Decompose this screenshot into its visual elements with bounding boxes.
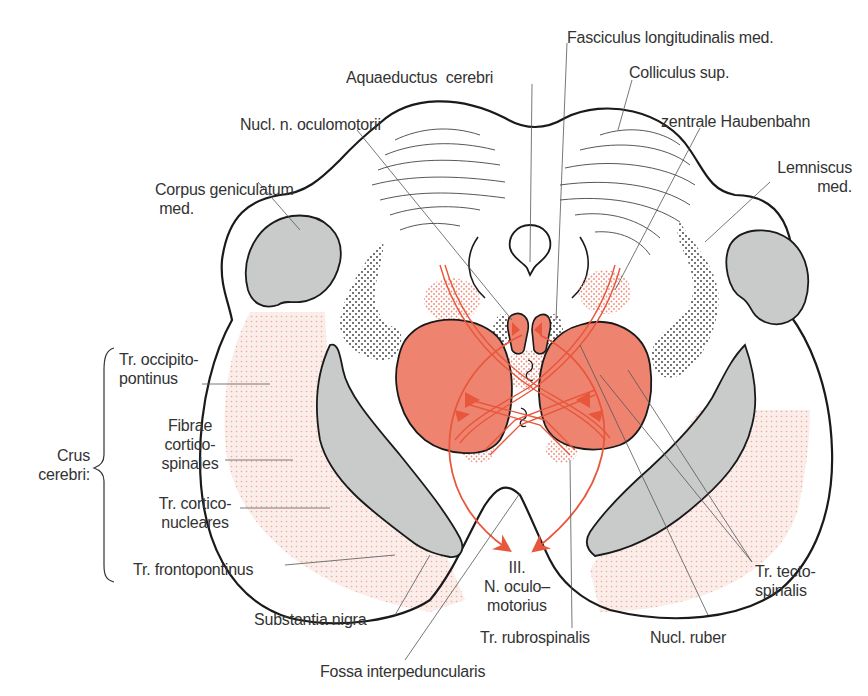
label-tr-frontopontinus: Tr. frontopontinus [133, 560, 253, 579]
diagram-canvas [0, 0, 868, 696]
label-tr-tectospinalis: Tr. tecto- spinalis [755, 562, 816, 600]
label-corpus-geniculatum: Corpus geniculatum med. [155, 180, 294, 218]
label-tr-rubrospinalis: Tr. rubrospinalis [480, 628, 590, 647]
lemniscus-left [340, 240, 401, 361]
label-n-oculomotorius: III. N. oculo– motorius [468, 558, 566, 615]
label-tr-corticonucleares: Tr. cortico- nucleares [140, 494, 250, 532]
label-substantia-nigra: Substantia nigra [254, 610, 366, 629]
label-fasciculus-longitudinalis: Fasciculus longitudinalis med. [567, 28, 774, 47]
corpus-geniculatum-left [246, 216, 341, 307]
label-tr-occipitopontinus: Tr. occipito- pontinus [119, 350, 199, 388]
midbrain-diagram: Aquaeductus cerebri Fasciculus longitudi… [0, 0, 868, 696]
label-zentrale-haubenbahn: zentrale Haubenbahn [661, 112, 810, 131]
crus-brace [94, 348, 114, 582]
nucl-oculomotorii-left [508, 313, 529, 353]
label-nucl-ruber: Nucl. ruber [650, 628, 726, 647]
label-colliculus-sup: Colliculus sup. [629, 63, 729, 82]
nucl-ruber-left [396, 320, 512, 453]
label-nucl-oculomotorii: Nucl. n. oculomotorii [240, 115, 381, 134]
label-fibrae-corticospinales: Fibrae cortico- spinales [140, 416, 240, 473]
label-aquaeductus: Aquaeductus cerebri [346, 68, 493, 87]
lemniscus-right [652, 222, 719, 378]
label-lemniscus-med: Lemniscus med. [754, 158, 852, 196]
corpus-geniculatum-right [726, 230, 808, 324]
label-fossa-interpeduncularis: Fossa interpeduncularis [320, 662, 485, 681]
label-crus-cerebri: Crus cerebri: [10, 446, 90, 484]
